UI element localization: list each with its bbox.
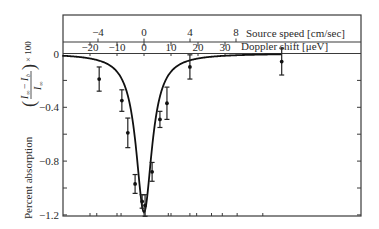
x2-axis-label: Source speed [cm/sec]	[246, 27, 345, 39]
fit-curve	[63, 54, 282, 212]
formula-open-paren: (	[19, 101, 40, 107]
formula-num-a-sub: ∞	[25, 90, 31, 95]
formula-num-b-sub: b	[25, 74, 31, 77]
data-point	[120, 99, 124, 103]
y-tick-label: −0.8	[39, 155, 59, 167]
data-point	[158, 118, 162, 122]
data-point-group	[97, 67, 102, 91]
data-point	[143, 204, 147, 208]
x2-tick-label: 0	[141, 26, 147, 38]
data-point-group	[164, 87, 169, 119]
x-tick-label: −10	[108, 41, 126, 53]
x2-tick-label: 8	[233, 26, 239, 38]
x-axis-label: Doppler shift [μeV]	[241, 40, 328, 52]
x-tick-label: 20	[193, 41, 205, 53]
x-tick-label: 10	[166, 41, 178, 53]
x-tick-label: 0	[141, 41, 147, 53]
chart: −20−100102030−40480−0.4−0.8−1.2 Source s…	[0, 0, 379, 229]
y-tick-label: 0	[54, 48, 60, 60]
data-point-group	[187, 55, 192, 79]
data-point	[140, 200, 144, 204]
y-tick-label: −1.2	[39, 209, 59, 221]
x2-tick-label: −4	[92, 26, 104, 38]
data-point-group	[125, 118, 130, 148]
data-point	[150, 170, 154, 174]
data-point-group	[157, 111, 162, 127]
data-point	[280, 60, 284, 64]
y-axis-formula: ( I ∞ − I b I ∞ ) × 100	[19, 41, 44, 107]
formula-minus: −	[19, 83, 30, 89]
data-point	[188, 65, 192, 69]
data-point-group	[279, 48, 284, 75]
x-tick-label: −20	[81, 41, 99, 53]
x-tick-label: 30	[220, 41, 232, 53]
data-point	[126, 131, 130, 135]
y-axis-label: Percent absorption ( I ∞ − I b I ∞ ) × 1…	[19, 41, 44, 219]
formula-den-sub: ∞	[38, 81, 44, 86]
x2-tick-label: 4	[187, 26, 193, 38]
data-point	[97, 77, 101, 81]
y-tick-label: −0.4	[39, 101, 59, 113]
data-point-group	[119, 90, 124, 112]
chart-svg: −20−100102030−40480−0.4−0.8−1.2 Source s…	[0, 0, 379, 229]
data-point-group	[133, 175, 138, 194]
data-point	[165, 101, 169, 105]
formula-times-100: × 100	[23, 41, 33, 62]
data-point	[133, 182, 137, 186]
y-axis-label-text: Percent absorption	[22, 136, 34, 219]
formula-close-paren: )	[19, 64, 40, 70]
data-points-group	[97, 48, 285, 216]
